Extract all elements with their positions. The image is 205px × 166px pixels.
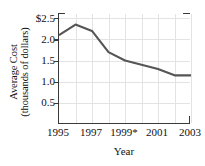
x-axis-title: Year [58, 145, 190, 157]
series-polyline [59, 25, 191, 76]
y-axis-title-line-1: Average Cost [8, 44, 19, 99]
y-axis-title: Average Cost (thousands of dollars) [4, 6, 34, 138]
vertical-gridline [191, 14, 192, 123]
x-axis-tick-labels: 199519971999*20012003 [0, 127, 205, 143]
x-axis-tick-label: 2003 [170, 127, 205, 138]
plot-area [58, 14, 190, 124]
series-line-average-cost [59, 14, 191, 124]
line-chart: Average Cost (thousands of dollars) 0.51… [0, 0, 205, 166]
y-axis-title-line-2: (thousands of dollars) [19, 27, 30, 116]
